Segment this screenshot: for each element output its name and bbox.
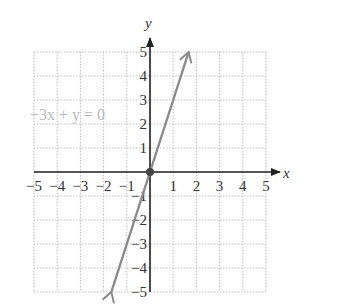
x-tick-label: 3: [216, 178, 224, 194]
x-tick-label: 2: [193, 178, 201, 194]
y-tick-label: 4: [140, 68, 148, 84]
x-tick-label: −4: [49, 178, 65, 194]
y-tick-label: 1: [140, 140, 148, 156]
x-tick-label: 4: [239, 178, 247, 194]
x-tick-label: 5: [262, 178, 270, 194]
y-tick-label: −5: [131, 284, 147, 300]
x-tick-label: −2: [96, 178, 112, 194]
x-tick-label: −3: [72, 178, 88, 194]
y-tick-label: 5: [140, 44, 148, 60]
y-axis-label: y: [143, 15, 152, 31]
x-axis-label: x: [282, 165, 290, 181]
coordinate-plane: −5−4−3−2−11234554321−1−2−3−4−5 x y −3x +…: [0, 0, 358, 307]
equation-label: −3x + y = 0: [30, 106, 105, 124]
x-tick-label: −5: [26, 178, 42, 194]
y-tick-label: 3: [140, 92, 148, 108]
origin-point: [146, 168, 154, 176]
y-tick-label: −3: [131, 236, 147, 252]
y-tick-label: 2: [140, 116, 148, 132]
x-tick-label: 1: [169, 178, 177, 194]
y-tick-label: −4: [131, 260, 147, 276]
